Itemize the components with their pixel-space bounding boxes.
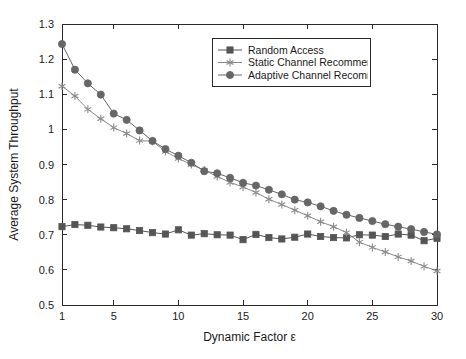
data-point-circle <box>369 217 376 224</box>
data-point-circle <box>343 211 350 218</box>
legend-label: Random Access <box>248 44 324 56</box>
data-point-square <box>421 238 427 244</box>
chart-canvas: 151015202530 0.50.60.70.80.911.11.21.3 R… <box>0 0 466 359</box>
x-tick-label: 25 <box>366 310 378 322</box>
chart-legend: Random AccessStatic Channel Recommendati… <box>212 38 410 86</box>
data-point-circle <box>291 196 298 203</box>
data-point-circle <box>84 80 91 87</box>
data-point-circle <box>420 228 427 235</box>
data-point-square <box>162 231 168 237</box>
x-tick-label: 1 <box>59 310 65 322</box>
data-point-circle <box>265 186 272 193</box>
data-point-square <box>382 233 388 239</box>
y-tick-label: 0.9 <box>39 159 54 171</box>
x-axis-label: Dynamic Factor ε <box>203 330 296 344</box>
data-point-asterisk <box>123 130 130 138</box>
data-point-circle <box>97 91 104 98</box>
data-point-square <box>356 232 362 238</box>
data-point-square <box>253 231 259 237</box>
legend-label: Adaptive Channel Recommendatio <box>248 69 410 81</box>
data-point-square <box>201 231 207 237</box>
chart-figure: 151015202530 0.50.60.70.80.911.11.21.3 R… <box>0 0 466 359</box>
data-point-asterisk <box>317 218 324 226</box>
data-point-square <box>305 231 311 237</box>
data-point-square <box>59 224 65 230</box>
y-tick-label: 1.2 <box>39 53 54 65</box>
x-tick-label: 5 <box>111 310 117 322</box>
data-point-circle <box>71 66 78 73</box>
data-point-square <box>72 221 78 227</box>
data-point-circle <box>395 223 402 230</box>
data-point-circle <box>162 145 169 152</box>
data-point-asterisk <box>356 238 363 246</box>
data-point-circle <box>382 221 389 228</box>
data-point-square <box>266 234 272 240</box>
data-point-circle <box>226 71 233 78</box>
data-point-asterisk <box>253 189 260 197</box>
data-point-asterisk <box>291 206 298 214</box>
data-point-circle <box>214 170 221 177</box>
data-point-square <box>124 226 130 232</box>
data-point-square <box>111 225 117 231</box>
data-point-square <box>188 232 194 238</box>
data-point-circle <box>304 199 311 206</box>
data-point-square <box>240 237 246 243</box>
data-point-asterisk <box>97 115 104 123</box>
data-point-circle <box>278 191 285 198</box>
data-point-asterisk <box>434 267 441 275</box>
data-point-asterisk <box>395 253 402 261</box>
data-point-square <box>292 234 298 240</box>
data-point-circle <box>149 137 156 144</box>
series-line <box>62 86 437 271</box>
data-point-asterisk <box>408 257 415 265</box>
data-point-asterisk <box>382 248 389 256</box>
data-point-square <box>279 236 285 242</box>
data-point-square <box>85 222 91 228</box>
x-tick-label: 20 <box>302 310 314 322</box>
data-point-square <box>98 224 104 230</box>
data-point-asterisk <box>304 212 311 220</box>
data-point-square <box>227 47 233 53</box>
data-point-circle <box>330 207 337 214</box>
data-point-square <box>227 232 233 238</box>
data-point-square <box>175 227 181 233</box>
data-point-square <box>136 227 142 233</box>
data-point-square <box>149 230 155 236</box>
data-point-asterisk <box>265 195 272 203</box>
y-tick-label: 1.3 <box>39 18 54 30</box>
data-point-asterisk <box>110 124 117 132</box>
y-axis-label: Average System Throughput <box>7 88 21 241</box>
data-point-circle <box>227 174 234 181</box>
data-point-circle <box>136 127 143 134</box>
x-tick-label: 15 <box>237 310 249 322</box>
data-point-square <box>330 234 336 240</box>
y-tick-label: 0.6 <box>39 264 54 276</box>
data-point-circle <box>58 40 65 47</box>
data-point-square <box>395 231 401 237</box>
data-point-circle <box>252 182 259 189</box>
data-point-asterisk <box>369 243 376 251</box>
data-point-circle <box>317 203 324 210</box>
data-point-asterisk <box>330 223 337 231</box>
y-tick-label: 0.8 <box>39 194 54 206</box>
y-tick-label: 1.1 <box>39 88 54 100</box>
x-tick-label: 30 <box>431 310 443 322</box>
data-point-square <box>369 232 375 238</box>
data-point-asterisk <box>421 262 428 270</box>
data-point-circle <box>356 214 363 221</box>
x-tick-label: 10 <box>172 310 184 322</box>
series-line <box>62 225 437 241</box>
data-point-circle <box>188 159 195 166</box>
legend-label: Static Channel Recommendation <box>248 56 402 68</box>
y-tick-label: 0.5 <box>39 299 54 311</box>
y-tick-label: 1 <box>48 123 54 135</box>
data-point-circle <box>110 110 117 117</box>
data-point-asterisk <box>59 82 66 90</box>
y-tick-label: 0.7 <box>39 229 54 241</box>
data-point-circle <box>433 231 440 238</box>
data-point-circle <box>123 116 130 123</box>
data-point-square <box>214 232 220 238</box>
data-point-circle <box>239 179 246 186</box>
data-point-asterisk <box>278 201 285 209</box>
data-point-circle <box>201 168 208 175</box>
